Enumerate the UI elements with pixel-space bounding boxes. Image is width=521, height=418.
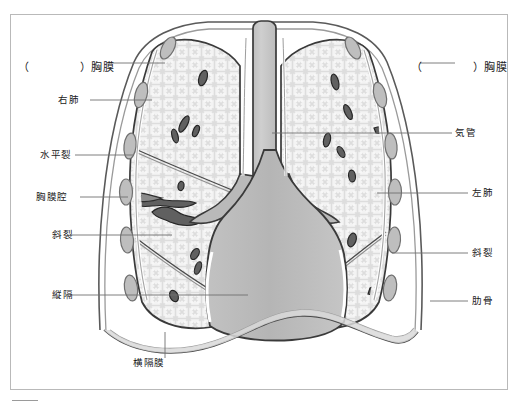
label-pleura-left-text: ）胸膜 [80, 61, 115, 74]
label-mediastinum: 縦隔 [52, 289, 73, 301]
label-trachea: 気管 [455, 127, 476, 139]
label-diaphragm: 横隔膜 [133, 357, 165, 369]
label-horizontal-fissure: 水平裂 [40, 149, 72, 161]
label-rib: 肋骨 [472, 295, 493, 307]
label-left-lung: 左肺 [472, 187, 493, 199]
label-right-lung: 右肺 [58, 94, 79, 106]
page-corner-mark [12, 400, 38, 401]
label-pleura-right-prefix: （ [411, 61, 423, 74]
label-pleura-left-blank: （ ）胸膜 [18, 58, 114, 74]
label-pleura-right-blank: （ ）胸膜 [411, 58, 507, 74]
label-pleura-left-prefix: （ [18, 61, 30, 74]
figure-root: （ ）胸膜 右肺 水平裂 胸膜腔 斜裂 縦隔 （ ）胸膜 気管 左肺 斜裂 肋骨… [0, 0, 521, 418]
label-pleura-right-text: ）胸膜 [473, 61, 508, 74]
label-oblique-fissure-right: 斜裂 [472, 247, 493, 259]
label-pleural-cavity: 胸膜腔 [36, 191, 68, 203]
label-oblique-fissure-left: 斜裂 [52, 229, 73, 241]
